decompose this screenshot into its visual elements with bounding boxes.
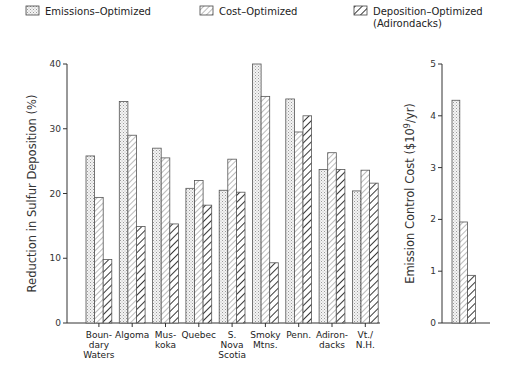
x-tick-label: Waters [83, 350, 115, 360]
left-bar-chart: 010203040Reduction in Sulfur Deposition … [25, 59, 380, 360]
y-tick-label: 4 [430, 111, 436, 121]
bar [270, 263, 279, 323]
y-tick-label: 1 [430, 266, 436, 276]
y-axis-title: Reduction in Sulfur Deposition (%) [25, 95, 39, 293]
legend-swatch-icon [354, 6, 367, 15]
bar [128, 135, 137, 323]
x-tick-label: S. [228, 330, 237, 340]
bar [452, 100, 460, 323]
bar [468, 275, 476, 323]
bar [161, 158, 170, 323]
bar [186, 188, 195, 323]
bar [170, 224, 179, 323]
x-tick-label: Smoky [250, 330, 281, 340]
bar-group: Boun-daryWaters [83, 156, 115, 360]
x-tick-label: dary [89, 340, 110, 350]
bar [219, 190, 228, 323]
bar [460, 222, 468, 323]
x-tick-label: Boun- [86, 330, 112, 340]
x-tick-label: koka [155, 340, 176, 350]
y-tick-label: 10 [50, 253, 62, 263]
bar [253, 64, 262, 323]
bar [261, 96, 270, 323]
legend-swatch-icon [26, 6, 39, 15]
legend-item: Emissions–Optimized [26, 6, 151, 17]
bar-group: SmokyMtns. [250, 64, 281, 350]
bar [294, 132, 303, 323]
x-tick-label: N.H. [356, 340, 375, 350]
legend-item: Deposition–Optimized(Adirondacks) [354, 6, 483, 29]
legend-label: Cost–Optimized [219, 6, 297, 17]
legend: Emissions–OptimizedCost–OptimizedDeposit… [26, 6, 483, 29]
legend-item: Cost–Optimized [200, 6, 297, 17]
x-tick-label: Penn. [286, 330, 311, 340]
bar-group: Vt./N.H. [352, 170, 378, 350]
bar [103, 260, 112, 323]
legend-label-line2: (Adirondacks) [373, 18, 442, 29]
bar [336, 170, 345, 323]
bar [195, 181, 204, 323]
x-tick-label: Adiron- [316, 330, 348, 340]
bar [361, 170, 370, 323]
bar-group: Algoma [115, 102, 149, 340]
legend-label: Deposition–Optimized [373, 6, 483, 17]
bar [328, 153, 337, 323]
y-tick-label: 40 [50, 59, 62, 69]
y-tick-label: 30 [50, 124, 62, 134]
bar-group: S.NovaScotia [218, 159, 246, 360]
bar [153, 148, 162, 323]
y-tick-label: 3 [430, 163, 436, 173]
legend-label: Emissions–Optimized [45, 6, 151, 17]
bar [303, 116, 312, 323]
bar-group: Mus-koka [153, 148, 179, 350]
bar [119, 102, 128, 323]
x-tick-label: Mus- [155, 330, 176, 340]
bar [236, 192, 245, 323]
bar-group: Quebec [182, 181, 217, 340]
x-tick-label: Mtns. [253, 340, 278, 350]
y-tick-label: 20 [50, 189, 62, 199]
bar [228, 159, 237, 323]
bar [286, 99, 295, 323]
bar [203, 205, 212, 323]
y-tick-label: 0 [55, 318, 61, 328]
bar [95, 197, 104, 323]
x-tick-label: Nova [221, 340, 244, 350]
bar-group: Adiron-dacks [316, 153, 348, 350]
bar [319, 170, 328, 323]
bar-group: Penn. [286, 99, 312, 340]
right-bar-chart: 012345Emission Control Cost ($109/yr) [403, 59, 491, 328]
y-tick-label: 2 [430, 214, 436, 224]
bar [352, 191, 361, 323]
x-tick-label: Algoma [115, 330, 149, 340]
x-tick-label: dacks [319, 340, 345, 350]
x-tick-label: Scotia [218, 350, 246, 360]
bar [370, 183, 379, 323]
x-tick-label: Quebec [182, 330, 217, 340]
bar [86, 156, 95, 323]
y-tick-label: 0 [430, 318, 436, 328]
y-tick-label: 5 [430, 59, 436, 69]
chart-canvas: Emissions–OptimizedCost–OptimizedDeposit… [0, 0, 515, 375]
legend-swatch-icon [200, 6, 213, 15]
y-axis-title: Emission Control Cost ($109/yr) [403, 103, 418, 284]
bar [137, 227, 146, 323]
x-tick-label: Vt./ [358, 330, 375, 340]
